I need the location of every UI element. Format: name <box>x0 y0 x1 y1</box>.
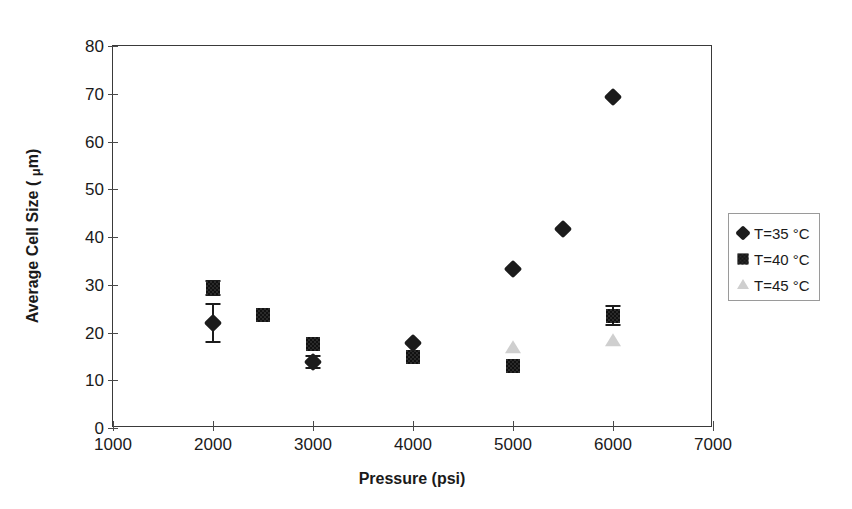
y-axis-tick-label: 20 <box>85 324 104 341</box>
y-axis-title-mu: μ <box>28 168 43 176</box>
legend-item-label: T=35 °C <box>754 226 810 241</box>
x-axis-tick <box>513 421 514 431</box>
data-point-diamond[interactable] <box>504 260 522 278</box>
plot-area: 01020304050607080 1000200030004000500060… <box>112 45 712 427</box>
data-point-diamond[interactable] <box>554 220 572 238</box>
y-axis-tick <box>108 46 118 47</box>
data-point-square[interactable] <box>606 309 620 323</box>
legend: T=35 °C T=40 °C T=45 °C <box>728 213 820 301</box>
x-axis-tick <box>613 421 614 431</box>
x-axis-tick <box>413 421 414 431</box>
y-axis-tick <box>108 333 118 334</box>
y-axis-tick <box>108 142 118 143</box>
error-bar-cap <box>206 341 221 343</box>
y-axis-tick-label: 80 <box>85 38 104 55</box>
error-bar-cap <box>606 324 621 326</box>
y-axis-tick-label: 60 <box>85 133 104 150</box>
x-axis-tick <box>113 421 114 431</box>
y-axis-title-suffix: m) <box>24 149 41 169</box>
data-point-triangle[interactable] <box>605 333 621 346</box>
x-axis-tick-label: 2000 <box>194 436 232 453</box>
x-axis-tick-label: 4000 <box>394 436 432 453</box>
x-axis-tick-label: 7000 <box>694 436 732 453</box>
legend-item-label: T=45 °C <box>754 278 810 293</box>
legend-item-label: T=40 °C <box>754 252 810 267</box>
diamond-marker-icon <box>735 225 751 241</box>
y-axis-title-prefix: Average Cell Size ( <box>24 176 41 323</box>
x-axis-tick <box>313 421 314 431</box>
triangle-marker-icon <box>735 277 751 293</box>
y-axis-tick-label: 70 <box>85 85 104 102</box>
error-bar-cap <box>606 305 621 307</box>
data-point-diamond[interactable] <box>604 87 622 105</box>
x-axis-tick-label: 5000 <box>494 436 532 453</box>
y-axis-tick-label: 30 <box>85 276 104 293</box>
y-axis-tick <box>108 94 118 95</box>
x-axis-tick-label: 3000 <box>294 436 332 453</box>
data-point-square[interactable] <box>306 337 320 351</box>
y-axis-tick <box>108 380 118 381</box>
data-point-diamond[interactable] <box>204 314 222 332</box>
chart-figure: Average Cell Size ( μm) Pressure (psi) 0… <box>0 0 852 509</box>
y-axis-tick-label: 0 <box>95 420 104 437</box>
x-axis-tick-label: 1000 <box>94 436 132 453</box>
data-point-triangle[interactable] <box>505 340 521 353</box>
y-axis-tick <box>108 285 118 286</box>
y-axis-tick-label: 40 <box>85 229 104 246</box>
y-axis-title: Average Cell Size ( μm) <box>24 45 58 427</box>
x-axis-title: Pressure (psi) <box>112 470 712 488</box>
legend-item[interactable]: T=45 °C <box>735 272 815 298</box>
y-axis-tick-label: 10 <box>85 372 104 389</box>
data-point-square[interactable] <box>256 308 270 322</box>
y-axis-tick <box>108 189 118 190</box>
legend-item[interactable]: T=35 °C <box>735 220 815 246</box>
data-point-square[interactable] <box>406 350 420 364</box>
data-point-square[interactable] <box>206 281 220 295</box>
y-axis-tick-label: 50 <box>85 181 104 198</box>
x-axis-tick <box>213 421 214 431</box>
y-axis-tick <box>108 237 118 238</box>
error-bar-cap <box>206 303 221 305</box>
square-marker-icon <box>735 251 751 267</box>
legend-item[interactable]: T=40 °C <box>735 246 815 272</box>
data-point-square[interactable] <box>506 359 520 373</box>
x-axis-tick-label: 6000 <box>594 436 632 453</box>
x-axis-tick <box>713 421 714 431</box>
